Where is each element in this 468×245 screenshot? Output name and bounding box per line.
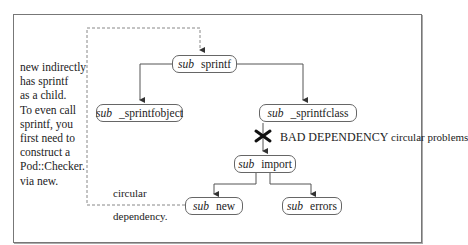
- node-keyword: sub: [287, 198, 303, 214]
- bad-dependency-rest: circular problems: [391, 131, 468, 143]
- note-line: sprintf, you: [20, 117, 90, 131]
- explanation-note: new indirectly has sprintf as a child. T…: [20, 60, 90, 188]
- node-name: sprintf: [201, 56, 231, 72]
- node-name: errors: [310, 198, 337, 214]
- note-line: Pod::Checker.: [20, 159, 90, 173]
- note-line: as a child.: [20, 88, 90, 102]
- node-sprintf: sub sprintf: [172, 55, 237, 73]
- node-name: _sprintfclass: [290, 105, 348, 121]
- node-errors: sub errors: [282, 197, 342, 215]
- edge-sprintf-to-sprintfobject: [140, 64, 172, 100]
- node-keyword: sub: [193, 198, 209, 214]
- node-name: _sprintfobject: [119, 105, 183, 121]
- node-keyword: sub: [178, 56, 194, 72]
- edge-sprintf-to-sprintfclass: [236, 64, 303, 100]
- note-line: has sprintf: [20, 74, 90, 88]
- node-keyword: sub: [96, 105, 112, 121]
- bad-dependency-label: BAD DEPENDENCY circular problems: [280, 130, 468, 145]
- bad-dependency-caps: BAD DEPENDENCY: [280, 130, 388, 144]
- node-sprintfobject: sub _sprintfobject: [96, 104, 183, 122]
- node-name: import: [261, 156, 292, 172]
- node-new: sub new: [185, 197, 243, 215]
- node-keyword: sub: [267, 105, 283, 121]
- edge-import-to-new: [214, 172, 256, 194]
- node-name: new: [216, 198, 235, 214]
- note-line: first need to: [20, 131, 90, 145]
- note-line: To even call: [20, 103, 90, 117]
- edge-import-to-errors: [270, 172, 311, 194]
- note-line: new indirectly: [20, 60, 90, 74]
- circular-label-bottom: dependency.: [113, 210, 168, 222]
- note-line: construct a: [20, 145, 90, 159]
- node-import: sub import: [234, 155, 296, 173]
- circular-label-top: circular: [113, 187, 147, 199]
- note-line: via new.: [20, 174, 90, 188]
- node-sprintfclass: sub _sprintfclass: [259, 104, 357, 122]
- node-keyword: sub: [238, 156, 254, 172]
